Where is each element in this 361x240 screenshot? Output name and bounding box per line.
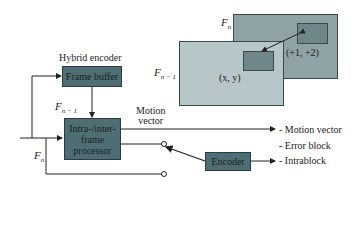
motion-vector-label: Motion vector [136, 106, 165, 126]
frame-buffer-block: Frame buffer [62, 66, 122, 87]
output-motion-vector: - Motion vector [279, 124, 342, 135]
hybrid-encoder-title: Hybrid encoder [59, 52, 121, 63]
f-n-1-input-label: Fn − 1 [55, 100, 77, 115]
intra-inter-processor-block: Intra-/inter- frame processor [64, 118, 121, 160]
f-n-input-label: Fn [34, 149, 44, 164]
encoder-block: Encoder [205, 152, 251, 171]
output-intrablock: - Intrablock [279, 155, 326, 166]
output-error-block: - Error block [279, 140, 331, 151]
